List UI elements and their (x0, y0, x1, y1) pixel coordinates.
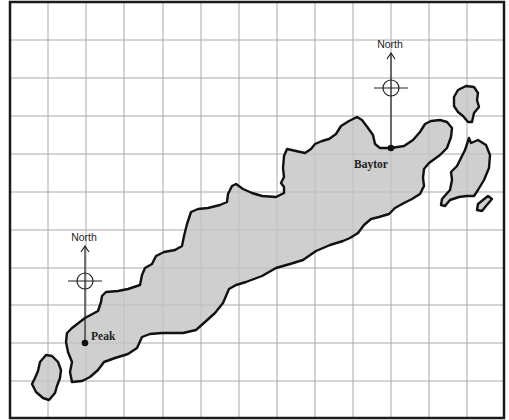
tiny-east-islet (477, 196, 492, 211)
town-label-peak: Peak (91, 330, 116, 342)
town-marker-baytor (388, 145, 395, 152)
town-label-baytor: Baytor (354, 158, 388, 171)
compass-baytor: North (374, 38, 408, 148)
southwest-islet (32, 355, 61, 400)
north-label-baytor: North (377, 38, 403, 50)
east-island (441, 138, 490, 206)
land-masses (32, 86, 492, 400)
island-map: North North Peak Baytor (0, 0, 509, 420)
northeast-islet (454, 86, 479, 122)
town-marker-peak (82, 340, 89, 347)
north-label-peak: North (71, 231, 97, 243)
